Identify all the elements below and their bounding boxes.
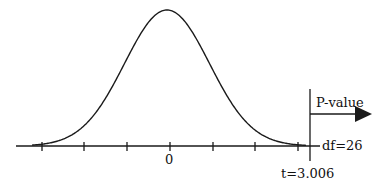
t-statistic-label: t=3.006 [281,167,334,180]
density-curve [32,10,306,145]
pvalue-label: P-value [316,96,364,109]
df-label: df=26 [322,139,363,152]
center-zero-label: 0 [165,153,173,166]
t-distribution-diagram [0,0,382,186]
